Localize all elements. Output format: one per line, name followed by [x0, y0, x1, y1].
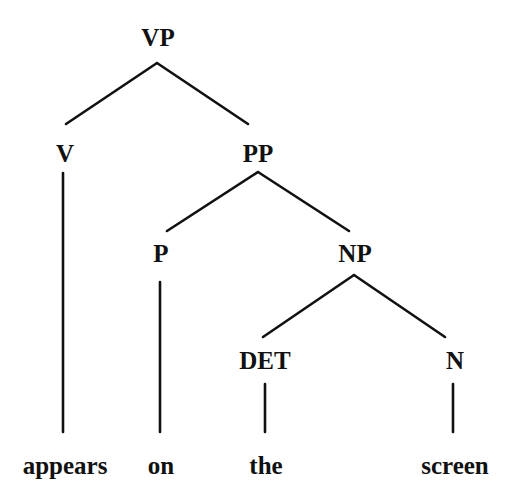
leaf-word-appears: appears: [23, 453, 108, 478]
tree-edges: [0, 0, 515, 502]
node-n: N: [446, 348, 464, 373]
edge-pp-np: [258, 172, 349, 231]
node-v: V: [56, 141, 74, 166]
edge-vp-v: [66, 63, 157, 124]
node-vp: VP: [141, 25, 174, 50]
edge-np-n: [354, 275, 445, 337]
node-pp: PP: [243, 141, 274, 166]
leaf-word-on: on: [148, 453, 174, 478]
node-p: P: [153, 241, 168, 266]
edge-np-det: [263, 275, 354, 337]
edge-vp-pp: [157, 63, 248, 124]
syntax-tree-diagram: VP V PP P NP DET N appears on the screen: [0, 0, 515, 502]
edge-pp-p: [167, 172, 258, 231]
node-np: NP: [338, 241, 371, 266]
leaf-word-screen: screen: [421, 453, 489, 478]
leaf-word-the: the: [249, 453, 282, 478]
node-det: DET: [239, 348, 290, 373]
